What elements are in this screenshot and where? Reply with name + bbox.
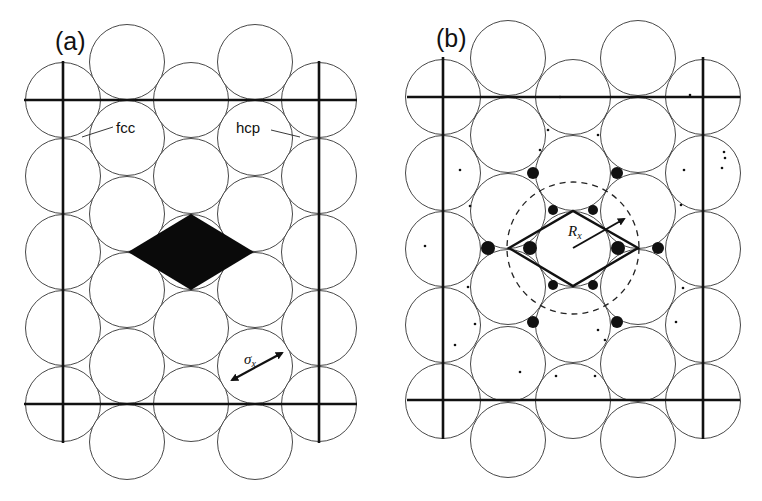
- adsorbate-cluster: [548, 280, 558, 290]
- adsorbate-dot: [519, 371, 522, 374]
- atom: [218, 101, 293, 176]
- adsorbate-dot: [597, 134, 600, 137]
- atom: [218, 25, 293, 100]
- panel-b-label: (b): [436, 24, 467, 52]
- atom: [154, 291, 229, 366]
- adsorbate-cluster: [611, 316, 623, 328]
- adsorbate-dot: [721, 167, 724, 170]
- adsorbate-dot: [680, 204, 683, 207]
- atom: [601, 174, 676, 249]
- adsorbate-cluster: [548, 205, 558, 215]
- atom: [218, 405, 293, 480]
- atom: [90, 25, 165, 100]
- panel-a: fcc hcp σx (a): [24, 25, 357, 480]
- adsorbate-cluster: [611, 167, 623, 179]
- atom: [471, 250, 546, 325]
- atom: [601, 327, 676, 402]
- atom: [471, 327, 546, 402]
- adsorbate-dot: [604, 339, 607, 342]
- adsorbate-cluster: [527, 167, 539, 179]
- atom: [90, 101, 165, 176]
- atom: [471, 21, 546, 96]
- fcc-label: fcc: [116, 119, 136, 136]
- adsorbate-dot: [723, 151, 726, 154]
- adsorbate-dot: [424, 245, 427, 248]
- figure: fcc hcp σx (a) Rx (b): [0, 0, 762, 501]
- adsorbate-cluster: [481, 241, 495, 255]
- adsorbate-dot: [454, 344, 457, 347]
- atom: [90, 405, 165, 480]
- adsorbate-dot: [683, 169, 686, 172]
- adsorbate-cluster: [611, 241, 625, 255]
- atom-lattice-b: [406, 21, 741, 478]
- adsorbate-dot: [459, 169, 462, 172]
- adsorbate-cluster: [527, 316, 539, 328]
- atom: [601, 403, 676, 478]
- atom: [471, 98, 546, 173]
- atom: [536, 288, 611, 363]
- atom: [536, 136, 611, 211]
- adsorbate-dot: [469, 205, 472, 208]
- atom: [154, 139, 229, 214]
- adsorbate-cluster: [652, 242, 664, 254]
- hcp-label: hcp: [236, 119, 260, 136]
- adsorbate-dot: [547, 129, 550, 132]
- adsorbate-cluster: [523, 241, 537, 255]
- adsorbate-dot: [682, 287, 685, 290]
- adsorbate-cluster: [588, 280, 598, 290]
- adsorbate-dot: [724, 157, 727, 160]
- panel-b: Rx (b): [406, 21, 741, 478]
- adsorbate-dot: [539, 149, 542, 152]
- panel-a-label: (a): [55, 27, 86, 55]
- atom: [601, 21, 676, 96]
- atom: [601, 98, 676, 173]
- adsorbate-dot: [675, 321, 678, 324]
- adsorbate-dot: [555, 375, 558, 378]
- atom: [471, 403, 546, 478]
- adsorbate-dot: [594, 375, 597, 378]
- adsorbate-cluster: [588, 205, 598, 215]
- adsorbate-dot: [467, 286, 470, 289]
- adsorbate-dot: [474, 323, 477, 326]
- adsorbate-dot: [597, 329, 600, 332]
- atom: [90, 329, 165, 404]
- atom: [471, 174, 546, 249]
